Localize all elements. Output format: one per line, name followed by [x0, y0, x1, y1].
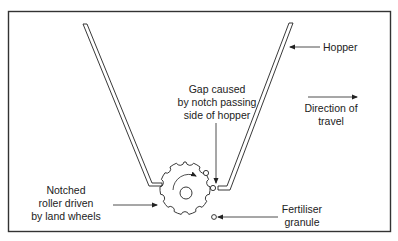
hopper-left-wall — [83, 24, 162, 186]
direction-label-line1: Direction of — [304, 102, 357, 114]
roller-axle — [180, 187, 192, 199]
roller-label-line1: Notched — [46, 184, 85, 196]
notched-roller — [160, 162, 210, 214]
falling-granule — [212, 215, 217, 220]
fertiliser-distributor-diagram: Hopper Gap caused by notch passing side … — [0, 0, 398, 241]
granule-label-line2: granule — [284, 216, 319, 228]
granule-in-notch-gap — [210, 185, 215, 190]
granule-label-line1: Fertiliser — [282, 203, 323, 215]
gap-label-line3: side of hopper — [184, 109, 251, 121]
rotation-arrow — [173, 174, 196, 190]
roller-label-line3: by land wheels — [31, 210, 100, 222]
granule-in-notch-top — [203, 170, 208, 175]
hopper-label: Hopper — [323, 41, 358, 53]
direction-label-line2: travel — [318, 115, 344, 127]
roller-label-line2: roller driven — [39, 197, 94, 209]
gear-icon — [160, 162, 210, 214]
gap-label-line1: Gap caused — [189, 83, 246, 95]
gap-label-line2: by notch passing — [178, 96, 257, 108]
